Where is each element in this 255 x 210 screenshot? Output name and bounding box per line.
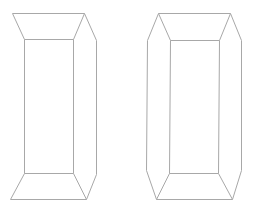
- left-prism-edge: [13, 14, 25, 40]
- right-prism-edge: [147, 171, 157, 200]
- right-prism-edge: [220, 14, 231, 41]
- right-prism-edge: [231, 14, 242, 41]
- left-prism-edge: [85, 14, 97, 41]
- right-prism-edge: [157, 174, 170, 200]
- right-prism-edge: [159, 14, 171, 41]
- right-prism-edge: [147, 41, 148, 171]
- right-prism-edge: [219, 174, 233, 200]
- right-prism: [147, 14, 242, 200]
- left-prism-edge: [87, 175, 97, 200]
- left-prism-edge: [11, 174, 25, 200]
- diagram-canvas: [0, 0, 255, 210]
- right-prism-edge: [219, 41, 220, 174]
- left-prism-edge: [74, 14, 85, 40]
- right-prism-edge: [170, 41, 171, 174]
- left-prism-edge: [74, 174, 87, 200]
- right-prism-edge: [233, 171, 242, 200]
- right-prism-edge: [148, 14, 159, 41]
- shapes-layer: [11, 14, 242, 200]
- left-prism: [11, 14, 97, 200]
